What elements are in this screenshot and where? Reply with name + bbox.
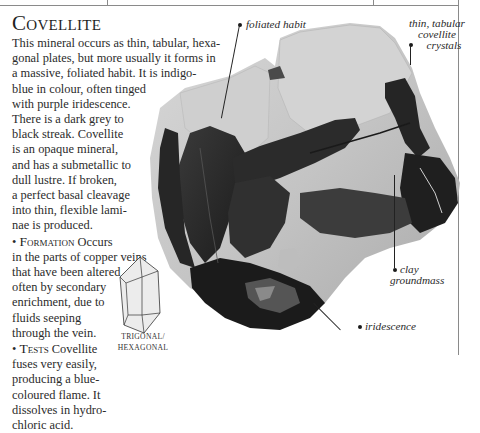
column-divider <box>373 0 374 5</box>
label-clay-groundmass: clay groundmass <box>390 264 444 286</box>
bullet-icon: • <box>12 342 16 356</box>
body-line: dissolves in hydro- <box>12 403 220 418</box>
page-title: Covellite <box>12 12 101 34</box>
body-line: fuses very easily, <box>12 357 220 372</box>
covellite-specimen-image <box>150 18 465 358</box>
body-line: producing a blue- <box>12 372 220 387</box>
top-table-border <box>0 0 458 6</box>
bullet-icon: • <box>12 235 16 249</box>
column-divider <box>107 0 108 5</box>
label-foliated-habit: foliated habit <box>246 19 306 30</box>
body-line: coloured flame. It <box>12 388 220 403</box>
trigonal-hexagonal-crystal-icon <box>114 255 166 337</box>
leader-line <box>394 175 395 268</box>
leader-line <box>410 45 411 65</box>
label-iridescence: iridescence <box>365 321 416 332</box>
body-line: chloric acid. <box>12 418 220 433</box>
crystal-system-label: TRIGONAL/ HEXAGONAL <box>113 331 173 353</box>
tests-heading: Tests <box>19 341 48 356</box>
formation-heading: Formation <box>19 234 74 249</box>
leader-dot <box>358 325 362 329</box>
